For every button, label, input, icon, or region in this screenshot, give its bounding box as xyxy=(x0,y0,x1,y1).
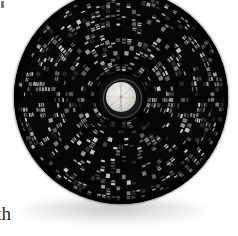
page-speck-artifact xyxy=(1,1,4,8)
detector-disc xyxy=(14,0,228,204)
hub-radial-lines xyxy=(106,82,136,112)
caption-text-fragment: th xyxy=(0,203,11,225)
disc-body xyxy=(14,0,228,204)
figure-root: th xyxy=(0,0,238,236)
hub-core xyxy=(106,82,136,112)
